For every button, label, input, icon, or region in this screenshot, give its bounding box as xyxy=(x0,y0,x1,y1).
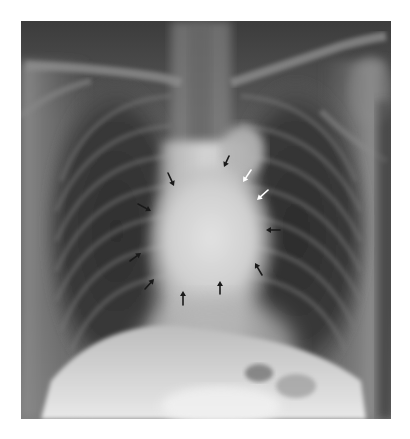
black-arrow-icon xyxy=(180,291,186,305)
white-arrow-icon xyxy=(257,190,268,200)
black-arrow-icon xyxy=(255,263,262,275)
black-arrow-icon xyxy=(217,281,223,294)
black-arrow-icon xyxy=(138,204,151,211)
black-arrow-icon xyxy=(130,253,141,261)
chest-xray-image xyxy=(21,21,391,419)
black-arrow-icon xyxy=(145,279,154,289)
annotation-arrows xyxy=(21,21,391,419)
black-arrow-icon xyxy=(168,173,175,186)
black-arrow-icon xyxy=(223,156,229,167)
black-arrow-icon xyxy=(266,227,280,233)
figure-page xyxy=(0,0,410,439)
white-arrow-icon xyxy=(243,170,251,182)
